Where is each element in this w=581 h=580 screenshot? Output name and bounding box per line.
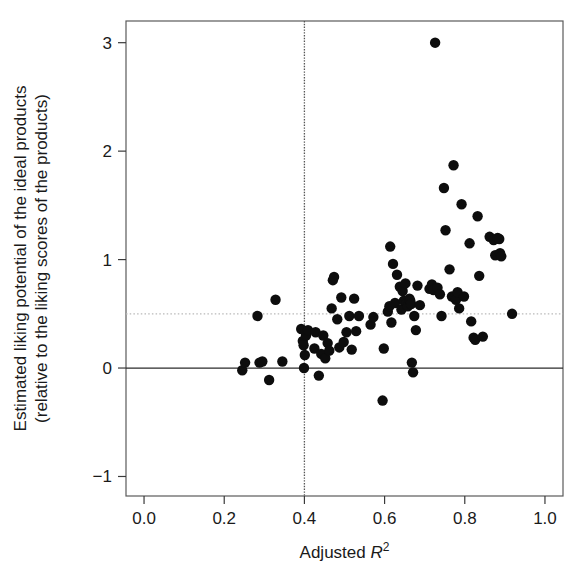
- y-tick-label: 1: [103, 251, 112, 270]
- data-point: [264, 375, 274, 385]
- data-point: [444, 264, 454, 274]
- x-tick-label: 0.6: [373, 509, 397, 528]
- data-point: [406, 299, 416, 309]
- data-point: [464, 238, 474, 248]
- data-point: [385, 241, 395, 251]
- data-point: [408, 367, 418, 377]
- data-point: [336, 292, 346, 302]
- data-point: [339, 337, 349, 347]
- data-point: [277, 356, 287, 366]
- data-point: [300, 350, 310, 360]
- data-point: [435, 289, 445, 299]
- y-tick-label: 2: [103, 142, 112, 161]
- plot-canvas: 0.00.20.40.60.81.0−10123Adjusted R2Estim…: [0, 0, 581, 580]
- x-tick-label: 0.2: [212, 509, 236, 528]
- scatter-plot-figure: 0.00.20.40.60.81.0−10123Adjusted R2Estim…: [0, 0, 581, 580]
- data-point: [430, 37, 440, 47]
- y-axis-title-line2: (relative to the liking scores of the pr…: [32, 94, 51, 423]
- data-point: [494, 234, 504, 244]
- data-point: [459, 291, 469, 301]
- data-point: [412, 280, 422, 290]
- data-point: [454, 303, 464, 313]
- data-point: [314, 370, 324, 380]
- x-tick-label: 0.0: [132, 509, 156, 528]
- data-point: [496, 251, 506, 261]
- data-point: [478, 331, 488, 341]
- data-point: [386, 317, 396, 327]
- y-tick-label: −1: [93, 467, 112, 486]
- data-point: [354, 311, 364, 321]
- data-point: [400, 278, 410, 288]
- x-axis-title: Adjusted R2: [300, 540, 390, 562]
- data-point: [368, 312, 378, 322]
- data-point: [407, 357, 417, 367]
- y-tick-label: 3: [103, 34, 112, 53]
- x-tick-label: 1.0: [533, 509, 557, 528]
- data-point: [456, 199, 466, 209]
- data-point: [299, 363, 309, 373]
- data-point: [507, 309, 517, 319]
- data-point: [344, 311, 354, 321]
- data-point: [257, 356, 267, 366]
- data-point: [347, 344, 357, 354]
- data-point: [392, 270, 402, 280]
- data-point: [298, 340, 308, 350]
- data-point: [351, 326, 361, 336]
- data-point: [326, 303, 336, 313]
- data-point: [270, 295, 280, 305]
- data-point: [388, 259, 398, 269]
- data-point: [341, 327, 351, 337]
- data-point: [409, 311, 419, 321]
- data-point: [377, 395, 387, 405]
- data-point: [440, 225, 450, 235]
- x-tick-label: 0.8: [453, 509, 477, 528]
- data-point: [240, 357, 250, 367]
- x-tick-label: 0.4: [293, 509, 317, 528]
- data-point: [324, 345, 334, 355]
- plot-root: 0.00.20.40.60.81.0−10123Adjusted R2Estim…: [11, 21, 563, 562]
- data-point: [448, 160, 458, 170]
- data-point: [415, 300, 425, 310]
- data-point: [379, 343, 389, 353]
- data-point: [472, 211, 482, 221]
- data-point: [329, 272, 339, 282]
- data-point: [411, 325, 421, 335]
- data-point: [332, 314, 342, 324]
- data-point: [466, 316, 476, 326]
- y-tick-label: 0: [103, 359, 112, 378]
- data-point: [474, 271, 484, 281]
- data-point: [436, 311, 446, 321]
- data-point: [349, 293, 359, 303]
- y-axis-title-line1: Estimated liking potential of the ideal …: [11, 86, 30, 432]
- data-point: [252, 311, 262, 321]
- data-point: [439, 183, 449, 193]
